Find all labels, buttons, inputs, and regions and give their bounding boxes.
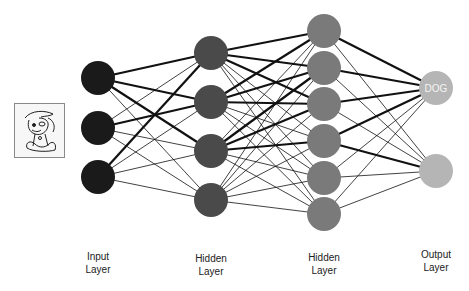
label-line: Hidden — [294, 251, 354, 264]
output-neuron — [419, 154, 453, 188]
label-line: Hidden — [181, 252, 241, 265]
input-neuron — [81, 111, 115, 145]
connection-edge — [211, 151, 324, 214]
label-line: Output — [406, 248, 466, 261]
connection-edge — [98, 53, 211, 78]
connection-edge — [98, 53, 211, 128]
input-neuron — [81, 160, 115, 194]
connection-edge — [211, 68, 324, 200]
connection-edge — [211, 102, 324, 141]
hidden2-neuron — [307, 124, 341, 158]
label-line: Layer — [294, 264, 354, 277]
hidden2-neuron — [307, 14, 341, 48]
hidden1-neuron — [194, 85, 228, 119]
hidden2-neuron — [307, 51, 341, 85]
neural-network-diagram: DOG — [0, 0, 469, 291]
connection-edge — [211, 200, 324, 214]
connection-edge — [211, 68, 324, 151]
label-line: Layer — [68, 263, 128, 276]
label-line: Layer — [181, 265, 241, 278]
hidden1-neuron — [194, 134, 228, 168]
hidden1-neuron — [194, 183, 228, 217]
hidden2-neuron — [307, 161, 341, 195]
output-layer-label: Output Layer — [406, 248, 466, 274]
cartoon-dog-icon — [15, 104, 64, 157]
connection-edge — [98, 151, 211, 177]
label-line: Layer — [406, 261, 466, 274]
connection-edge — [324, 31, 436, 88]
output-class-label: DOG — [425, 83, 448, 94]
input-layer-label: Input Layer — [68, 250, 128, 276]
hidden2-neuron — [307, 197, 341, 231]
label-line: Input — [68, 250, 128, 263]
input-neuron — [81, 61, 115, 95]
connection-edge — [98, 53, 211, 177]
hidden-layer-2-label: Hidden Layer — [294, 251, 354, 277]
connections — [98, 31, 436, 214]
hidden1-neuron — [194, 36, 228, 70]
hidden2-neuron — [307, 87, 341, 121]
input-dog-image — [14, 103, 65, 158]
connection-edge — [324, 68, 436, 88]
hidden-layer-1-label: Hidden Layer — [181, 252, 241, 278]
connection-edge — [324, 88, 436, 214]
connection-edge — [98, 177, 211, 200]
